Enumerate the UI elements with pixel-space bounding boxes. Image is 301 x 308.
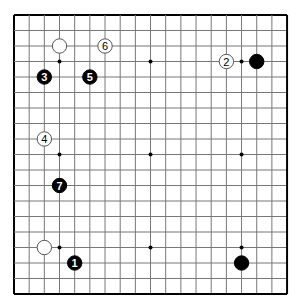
star-point (240, 246, 244, 250)
star-point (149, 60, 153, 64)
star-point (58, 153, 62, 157)
stone-disc (234, 256, 248, 270)
star-point (149, 153, 153, 157)
move-number: 3 (41, 71, 47, 83)
white-stone (52, 39, 66, 53)
stone-disc (250, 54, 264, 68)
black-stone: 7 (52, 178, 66, 192)
move-number: 7 (56, 180, 62, 192)
move-number: 2 (223, 56, 229, 68)
go-board: 6352471 (0, 0, 301, 308)
star-point (58, 246, 62, 250)
black-stone (250, 54, 264, 68)
white-stone: 2 (219, 54, 233, 68)
black-stone: 3 (37, 70, 51, 84)
black-stone: 1 (67, 256, 81, 270)
white-stone: 4 (37, 132, 51, 146)
stone-disc (37, 240, 51, 254)
black-stone (234, 256, 248, 270)
move-number: 6 (102, 40, 108, 52)
move-number: 4 (41, 133, 47, 145)
white-stone: 6 (98, 39, 112, 53)
star-point (240, 60, 244, 64)
move-number: 1 (72, 257, 78, 269)
white-stone (37, 240, 51, 254)
move-number: 5 (87, 71, 93, 83)
star-point (240, 153, 244, 157)
star-point (58, 60, 62, 64)
star-point (149, 246, 153, 250)
stone-disc (52, 39, 66, 53)
black-stone: 5 (83, 70, 97, 84)
